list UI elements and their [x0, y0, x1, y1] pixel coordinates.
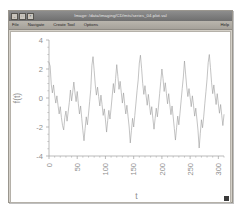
svg-text:200: 200	[158, 163, 167, 176]
data-series	[49, 55, 224, 149]
menu-item-file[interactable]: File	[12, 21, 19, 29]
plot-window: _ □ × Image: /data/imaging/CD/mts/series…	[8, 10, 233, 203]
menu-item-navigate[interactable]: Navigate	[28, 21, 45, 29]
svg-text:50: 50	[73, 163, 82, 171]
window-title: Image: /data/imaging/CD/mts/series_04.pl…	[9, 11, 232, 21]
svg-text:4: 4	[39, 36, 43, 45]
svg-text:-2: -2	[36, 123, 43, 132]
menu-item-create-tool[interactable]: Create Tool	[53, 21, 74, 29]
plot-svg: -4-2024050100150200250300 f(t) t	[11, 32, 230, 202]
plot-canvas[interactable]: -4-2024050100150200250300 f(t) t	[10, 31, 231, 203]
axes: -4-2024050100150200250300	[36, 36, 224, 176]
svg-text:250: 250	[186, 163, 195, 176]
svg-text:150: 150	[129, 163, 138, 176]
desktop-background: _ □ × Image: /data/imaging/CD/mts/series…	[0, 0, 239, 214]
window-minimize-button[interactable]: _	[11, 13, 18, 20]
menu-item-help[interactable]: Help	[220, 21, 229, 29]
svg-text:0: 0	[45, 163, 54, 167]
window-titlebar[interactable]: _ □ × Image: /data/imaging/CD/mts/series…	[9, 11, 232, 21]
svg-text:2: 2	[39, 65, 43, 74]
menu-item-options[interactable]: Options	[84, 21, 98, 29]
svg-text:f(t): f(t)	[12, 93, 22, 104]
window-maximize-button[interactable]: □	[19, 13, 26, 20]
menubar: File Navigate Create Tool Options Help	[9, 21, 232, 30]
window-close-button[interactable]: ×	[27, 13, 34, 20]
svg-text:0: 0	[39, 94, 43, 103]
svg-text:-4: -4	[36, 152, 43, 161]
resize-grip[interactable]	[224, 196, 229, 201]
y-axis-label: f(t)	[12, 93, 22, 104]
x-axis-label: t	[135, 191, 138, 201]
svg-text:100: 100	[101, 163, 110, 176]
svg-text:t: t	[135, 191, 138, 201]
svg-text:300: 300	[214, 163, 223, 176]
